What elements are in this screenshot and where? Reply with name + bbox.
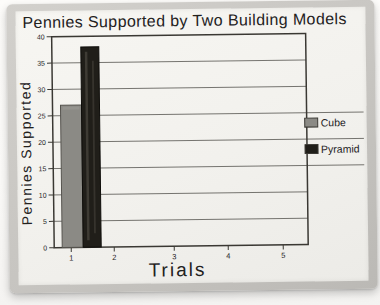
legend-frame-line [307, 112, 364, 113]
legend-label-pyramid: Pyramid [321, 142, 360, 154]
graph-paper: Pennies Supported by Two Building Models… [15, 7, 368, 285]
x-axis-label: Trials [149, 259, 207, 281]
y-tick-label: 10 [39, 192, 47, 199]
legend-label-cube: Cube [321, 116, 346, 128]
legend-frame-line [307, 165, 364, 166]
bar-texture-streak [63, 106, 80, 109]
photo-of-paper-chart: Pennies Supported by Two Building Models… [0, 0, 380, 305]
legend-swatch-pyramid [305, 144, 318, 153]
bar-chart: 051015202530354012345Pennies SupportedTr… [16, 29, 369, 285]
x-tick-label: 2 [112, 253, 116, 262]
legend-swatch-cube [305, 118, 318, 127]
y-tick-label: 15 [38, 165, 46, 172]
y-tick-label: 20 [38, 139, 46, 146]
x-tick-label: 4 [226, 252, 230, 261]
y-tick-label: 5 [43, 218, 47, 225]
y-tick-label: 0 [43, 244, 47, 251]
bar-cube [60, 105, 83, 248]
y-tick-label: 40 [37, 33, 45, 40]
y-tick-label: 30 [37, 86, 45, 93]
bar-pyramid [81, 47, 101, 248]
y-axis-label: Pennies Supported [17, 81, 35, 226]
x-tick-label: 1 [69, 253, 73, 262]
x-tick-label: 5 [281, 251, 285, 260]
cardboard-mat: Pennies Supported by Two Building Models… [6, 0, 378, 293]
y-tick-label: 35 [37, 60, 45, 67]
y-tick-label: 25 [38, 113, 46, 120]
legend-frame-line [307, 138, 364, 139]
